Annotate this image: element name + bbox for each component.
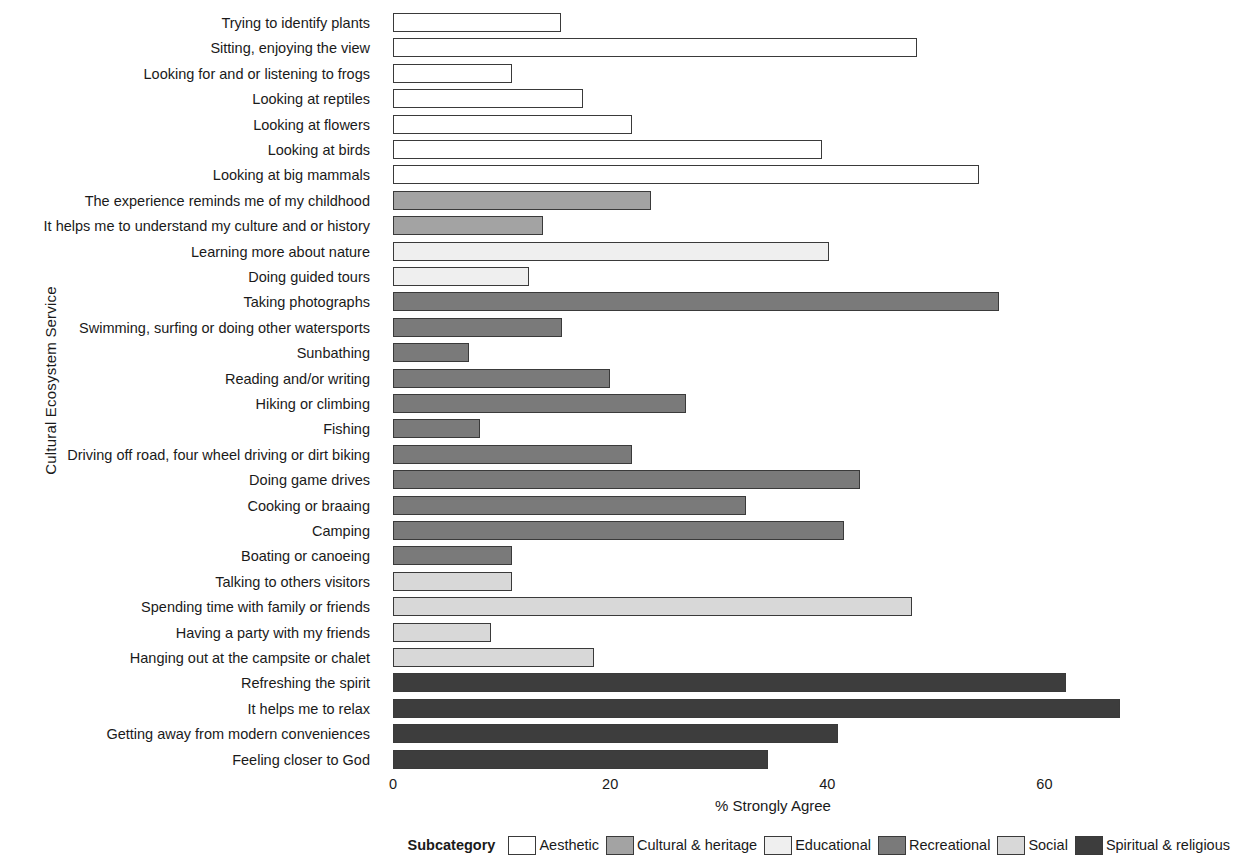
bar-rows (393, 10, 1153, 772)
category-label: Hiking or climbing (256, 391, 370, 417)
x-axis-ticks: 0204060 (393, 776, 1153, 798)
category-label: Looking at reptiles (252, 86, 370, 112)
bar (393, 394, 686, 413)
bar (393, 724, 838, 743)
legend-swatch (878, 836, 906, 855)
category-label: Hanging out at the campsite or chalet (130, 645, 370, 671)
category-label: Getting away from modern conveniences (106, 721, 370, 747)
bar (393, 38, 917, 57)
bar (393, 64, 512, 83)
category-label: Sitting, enjoying the view (210, 35, 370, 61)
legend-label: Social (1028, 837, 1068, 853)
legend-label: Educational (795, 837, 871, 853)
bar (393, 673, 1066, 692)
category-label: Swimming, surfing or doing other watersp… (79, 315, 370, 341)
plot-area (393, 10, 1153, 772)
bar (393, 13, 561, 32)
bar (393, 369, 610, 388)
legend-label: Spiritual & religious (1106, 837, 1230, 853)
bar (393, 343, 469, 362)
category-label: Sunbathing (297, 340, 370, 366)
category-label: Trying to identify plants (221, 10, 370, 36)
x-axis-tick-label: 40 (819, 776, 835, 792)
bar (393, 546, 512, 565)
bar (393, 89, 583, 108)
legend-label: Aesthetic (539, 837, 599, 853)
bar (393, 572, 512, 591)
category-label: Talking to others visitors (215, 569, 370, 595)
bar (393, 750, 768, 769)
category-label: It helps me to understand my culture and… (44, 213, 370, 239)
bar (393, 267, 529, 286)
x-axis-tick-label: 20 (602, 776, 618, 792)
bar (393, 216, 543, 235)
category-label: Taking photographs (243, 289, 370, 315)
category-label: Spending time with family or friends (141, 594, 370, 620)
bar (393, 292, 999, 311)
bar (393, 445, 632, 464)
x-axis-tick-label: 60 (1036, 776, 1052, 792)
bar (393, 521, 844, 540)
category-label: Doing guided tours (248, 264, 370, 290)
legend-item[interactable]: Spiritual & religious (1070, 836, 1232, 855)
bar (393, 419, 480, 438)
category-label: Refreshing the spirit (241, 670, 370, 696)
bar (393, 242, 829, 261)
x-axis-tick-label: 0 (389, 776, 397, 792)
legend-item[interactable]: Recreational (873, 836, 992, 855)
legend-swatch (997, 836, 1025, 855)
category-label: The experience reminds me of my childhoo… (85, 188, 370, 214)
bar (393, 140, 822, 159)
legend-swatch (764, 836, 792, 855)
x-axis-title: % Strongly Agree (393, 797, 1153, 814)
bar (393, 597, 912, 616)
bar (393, 623, 491, 642)
category-label: Looking at big mammals (213, 162, 370, 188)
legend-item[interactable]: Cultural & heritage (601, 836, 759, 855)
legend-label: Recreational (909, 837, 990, 853)
category-label: Driving off road, four wheel driving or … (67, 442, 370, 468)
legend: Subcategory AestheticCultural & heritage… (0, 832, 1238, 858)
bar (393, 470, 860, 489)
category-label: Looking at birds (268, 137, 370, 163)
bar (393, 648, 594, 667)
category-label: Camping (312, 518, 370, 544)
category-label: Doing game drives (249, 467, 370, 493)
legend-swatch (508, 836, 536, 855)
legend-item[interactable]: Aesthetic (503, 836, 601, 855)
legend-swatch (1075, 836, 1103, 855)
y-axis-category-labels: Trying to identify plantsSitting, enjoyi… (0, 10, 380, 772)
chart-figure: Cultural Ecosystem Service Trying to ide… (0, 0, 1238, 863)
legend-item[interactable]: Educational (759, 836, 873, 855)
bar (393, 191, 651, 210)
bar (393, 165, 979, 184)
category-label: Looking at flowers (253, 112, 370, 138)
bar (393, 318, 562, 337)
legend-swatch (606, 836, 634, 855)
category-label: Fishing (323, 416, 370, 442)
category-label: Cooking or braaing (247, 493, 370, 519)
legend-label: Cultural & heritage (637, 837, 757, 853)
bar (393, 699, 1120, 718)
category-label: Feeling closer to God (232, 747, 370, 773)
bar (393, 496, 746, 515)
legend-title: Subcategory (408, 837, 496, 853)
legend-item[interactable]: Social (992, 836, 1070, 855)
category-label: Boating or canoeing (241, 543, 370, 569)
category-label: Looking for and or listening to frogs (144, 61, 371, 87)
category-label: It helps me to relax (248, 696, 371, 722)
bar (393, 115, 632, 134)
category-label: Reading and/or writing (225, 366, 370, 392)
category-label: Having a party with my friends (176, 620, 370, 646)
category-label: Learning more about nature (191, 239, 370, 265)
